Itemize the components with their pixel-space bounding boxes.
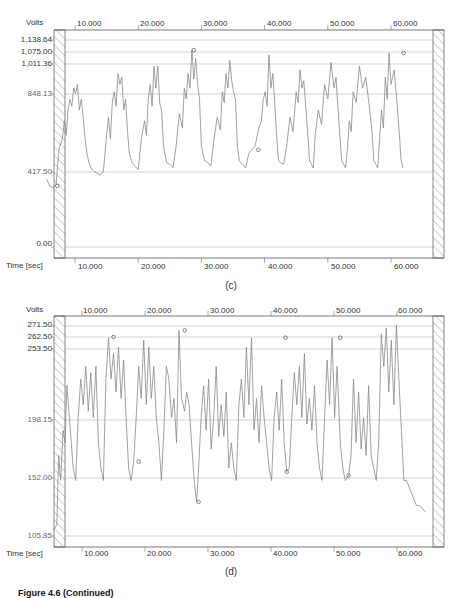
plot-area-c <box>47 25 444 263</box>
waveform-trace <box>54 325 426 530</box>
peak-marker-icon <box>183 328 187 332</box>
trough-marker-icon <box>256 148 260 152</box>
peak-marker-icon <box>284 336 288 340</box>
plot-area-d <box>51 311 444 552</box>
peak-marker-icon <box>339 336 343 340</box>
peak-marker-icon <box>402 51 406 55</box>
peak-marker-icon <box>192 48 196 52</box>
trough-marker-icon <box>197 500 201 504</box>
waveform-trace <box>47 50 403 188</box>
trough-marker-icon <box>137 460 141 464</box>
